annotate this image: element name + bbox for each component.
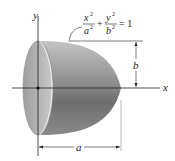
equation-leader bbox=[69, 27, 82, 42]
ellipsoid-diagram: x y b a x 2 a 2 + y 2 b 2 = 1 bbox=[0, 0, 175, 161]
y-axis-label: y bbox=[32, 9, 38, 21]
eq-y-exp: 2 bbox=[112, 11, 115, 17]
b-arrow-bottom bbox=[135, 83, 138, 87]
b-arrow-top bbox=[135, 42, 138, 46]
eq-x-exp: 2 bbox=[90, 11, 93, 17]
origin-dot bbox=[36, 86, 39, 89]
eq-b: b bbox=[106, 25, 111, 36]
eq-equals: = 1 bbox=[119, 18, 132, 29]
eq-a: a bbox=[84, 25, 89, 36]
eq-a-exp: 2 bbox=[90, 24, 93, 30]
a-dimension-label: a bbox=[76, 141, 82, 153]
x-axis-label: x bbox=[162, 81, 168, 93]
b-dimension-label: b bbox=[133, 59, 139, 71]
eq-x: x bbox=[83, 12, 89, 23]
eq-y: y bbox=[105, 12, 111, 23]
ellipse-equation: x 2 a 2 + y 2 b 2 = 1 bbox=[83, 11, 132, 36]
eq-b-exp: 2 bbox=[112, 24, 115, 30]
eq-plus: + bbox=[97, 18, 103, 29]
a-arrow-right bbox=[116, 146, 120, 149]
a-arrow-left bbox=[39, 146, 43, 149]
